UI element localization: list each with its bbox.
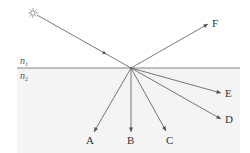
incident-ray xyxy=(37,15,131,68)
medium-label-n1: n1 xyxy=(20,55,28,67)
optics-diagram: FEDCBA n1n2 xyxy=(0,0,250,153)
diagram-canvas: FEDCBA n1n2 xyxy=(0,0,250,153)
ray-label-e: E xyxy=(225,87,232,99)
ray-label-b: B xyxy=(127,134,134,146)
ray-label-c: C xyxy=(166,134,173,146)
sun-icon xyxy=(28,8,38,18)
ray-label-d: D xyxy=(225,113,233,125)
ray-label-f: F xyxy=(212,17,218,29)
ray-f xyxy=(131,24,208,68)
ray-label-a: A xyxy=(86,134,94,146)
